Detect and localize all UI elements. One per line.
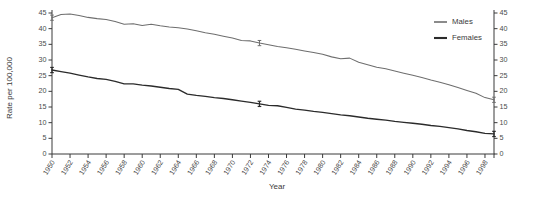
line-chart: 051015202530354045 051015202530354045 19… <box>0 0 545 201</box>
x-tick-label: 1994 <box>438 158 454 176</box>
x-axis: 1950195219541956195819601962196419661968… <box>41 154 495 177</box>
x-tick-label: 1992 <box>420 158 436 176</box>
x-tick-label: 1968 <box>203 158 219 176</box>
y-tick-label-right: 10 <box>500 118 508 127</box>
y-tick-label: 0 <box>43 149 47 158</box>
x-tick-label: 1988 <box>384 158 400 176</box>
x-tick-label: 1998 <box>474 158 490 176</box>
y-tick-label: 40 <box>39 24 47 33</box>
x-tick-label: 1986 <box>366 158 382 176</box>
x-tick-label: 1952 <box>59 158 75 176</box>
y-tick-label-right: 45 <box>500 8 508 17</box>
y-tick-label-right: 15 <box>500 102 508 111</box>
x-tick-label: 1972 <box>239 158 255 176</box>
x-tick-label: 1984 <box>347 158 363 176</box>
series-line-males <box>52 14 494 100</box>
y-tick-label: 45 <box>39 8 47 17</box>
y-tick-label: 25 <box>39 71 47 80</box>
x-tick-label: 1960 <box>131 158 147 176</box>
y-axis-title: Rate per 100,000 <box>5 57 14 119</box>
y-tick-label: 15 <box>39 102 47 111</box>
chart-legend: MalesFemales <box>434 17 482 42</box>
y-tick-label-right: 30 <box>500 55 508 64</box>
legend-item-females[interactable]: Females <box>434 33 482 42</box>
series-layer <box>50 14 496 137</box>
y-tick-label: 35 <box>39 39 47 48</box>
x-tick-label: 1970 <box>221 158 237 176</box>
y-tick-label-right: 25 <box>500 71 508 80</box>
error-bars <box>50 15 496 136</box>
legend-label: Males <box>452 17 473 26</box>
x-tick-label: 1962 <box>149 158 165 176</box>
y-tick-label: 30 <box>39 55 47 64</box>
x-tick-label: 1978 <box>293 158 309 176</box>
x-tick-label: 1956 <box>95 158 111 176</box>
x-tick-label: 1974 <box>257 158 273 176</box>
y-tick-label-right: 20 <box>500 86 508 95</box>
y-tick-label-right: 40 <box>500 24 508 33</box>
y-tick-label: 5 <box>43 133 47 142</box>
x-tick-label: 1996 <box>456 158 472 176</box>
x-tick-label: 1954 <box>77 158 93 176</box>
chart-container: 051015202530354045 051015202530354045 19… <box>0 0 545 201</box>
x-tick-label: 1980 <box>311 158 327 176</box>
x-tick-label: 1950 <box>41 158 57 176</box>
legend-label: Females <box>452 33 482 42</box>
legend-item-males[interactable]: Males <box>434 17 473 26</box>
y-tick-label-right: 5 <box>500 133 504 142</box>
x-tick-label: 1966 <box>185 158 201 176</box>
y-tick-label: 20 <box>39 86 47 95</box>
x-tick-label: 1982 <box>329 158 345 176</box>
x-tick-label: 1964 <box>167 158 183 176</box>
y-tick-label-right: 35 <box>500 39 508 48</box>
y-axis-left: 051015202530354045 <box>39 8 53 158</box>
x-tick-label: 1958 <box>113 158 129 176</box>
y-tick-label: 10 <box>39 118 47 127</box>
x-tick-label: 1976 <box>275 158 291 176</box>
y-tick-label-right: 0 <box>500 149 504 158</box>
x-tick-label: 1990 <box>402 158 418 176</box>
x-axis-title: Year <box>269 182 286 191</box>
y-axis-right: 051015202530354045 <box>494 8 508 158</box>
